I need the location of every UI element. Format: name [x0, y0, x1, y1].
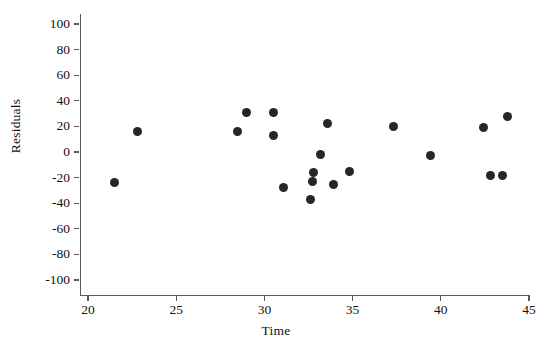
data-point — [233, 127, 242, 136]
data-point — [389, 122, 398, 131]
x-tick-mark — [264, 296, 265, 301]
data-point — [486, 171, 495, 180]
data-point — [479, 123, 488, 132]
x-tick-mark — [440, 296, 441, 301]
y-tick-mark — [74, 126, 79, 127]
x-axis-title: Time — [236, 323, 316, 339]
y-tick-label: -60 — [8, 222, 70, 236]
y-tick-mark — [74, 279, 79, 280]
y-tick-label-text: -40 — [52, 196, 70, 210]
y-tick-mark — [74, 203, 79, 204]
data-point — [503, 112, 512, 121]
x-tick-label: 20 — [68, 303, 108, 317]
y-tick-label: 100 — [8, 17, 70, 31]
x-tick-label: 35 — [333, 303, 373, 317]
y-tick-mark — [74, 151, 79, 152]
data-point — [269, 131, 278, 140]
y-tick-label: 80 — [8, 43, 70, 57]
data-point — [498, 171, 507, 180]
y-tick-mark — [74, 100, 79, 101]
y-tick-mark — [74, 177, 79, 178]
y-tick-label-text: 100 — [50, 17, 70, 31]
y-tick-mark — [74, 254, 79, 255]
x-tick-label: 30 — [244, 303, 284, 317]
scatter-plot-figure: 100806040200-20-40-60-80-100 20253035404… — [0, 0, 552, 350]
y-tick-label-text: 20 — [57, 119, 71, 133]
data-point — [323, 119, 332, 128]
y-tick-mark — [74, 228, 79, 229]
x-tick-label: 45 — [509, 303, 549, 317]
y-axis-title: Residuals — [8, 66, 24, 186]
y-tick-mark — [74, 49, 79, 50]
x-tick-mark — [87, 296, 88, 301]
data-point — [316, 150, 325, 159]
data-point — [309, 168, 318, 177]
y-tick-label-text: -100 — [45, 273, 70, 287]
y-tick-mark — [74, 75, 79, 76]
y-tick-label: -40 — [8, 196, 70, 210]
y-tick-mark — [74, 23, 79, 24]
x-tick-label: 25 — [156, 303, 196, 317]
y-tick-label: -80 — [8, 247, 70, 261]
data-point — [345, 167, 354, 176]
data-point — [308, 177, 317, 186]
x-tick-mark — [528, 296, 529, 301]
data-point — [279, 183, 288, 192]
y-tick-label-text: -80 — [52, 247, 70, 261]
x-tick-mark — [352, 296, 353, 301]
data-point — [426, 151, 435, 160]
data-point — [329, 180, 338, 189]
data-point — [306, 195, 315, 204]
y-tick-label: -100 — [8, 273, 70, 287]
data-point — [242, 108, 251, 117]
y-tick-label-text: 40 — [57, 94, 71, 108]
y-tick-label-text: -20 — [52, 171, 70, 185]
x-tick-mark — [176, 296, 177, 301]
y-axis-line — [80, 14, 81, 296]
x-tick-label: 40 — [421, 303, 461, 317]
data-point — [133, 127, 142, 136]
x-axis-line — [80, 295, 530, 296]
y-tick-label-text: 0 — [63, 145, 70, 159]
y-tick-label-text: 60 — [57, 68, 71, 82]
y-tick-label-text: 80 — [57, 43, 71, 57]
y-tick-label-text: -60 — [52, 222, 70, 236]
data-point — [110, 178, 119, 187]
data-point — [269, 108, 278, 117]
